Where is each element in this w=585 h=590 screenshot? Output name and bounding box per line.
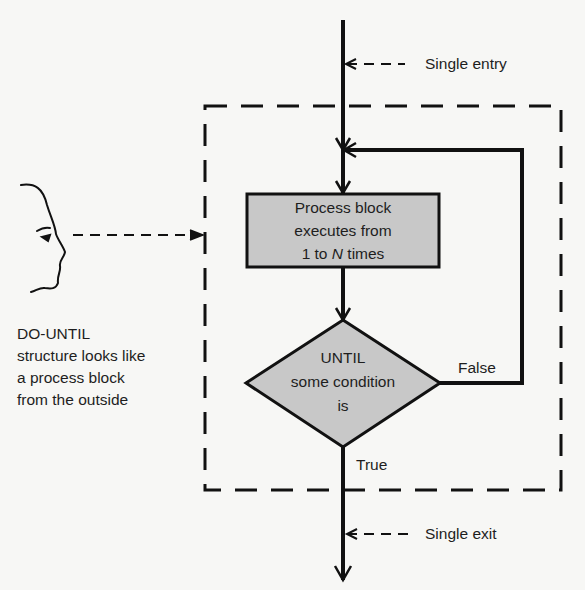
- decision-text: UNTIL some condition is: [246, 346, 440, 418]
- structure-boundary: [205, 106, 561, 490]
- flowchart-canvas: [0, 0, 585, 590]
- process-block-text: Process block executes from 1 to N times: [247, 196, 439, 265]
- sight-arrow: [190, 230, 203, 240]
- observer-note: DO-UNTIL structure looks like a process …: [17, 323, 145, 411]
- single-exit-label: Single exit: [425, 524, 497, 544]
- face-profile-icon: [21, 185, 65, 292]
- single-entry-label: Single entry: [425, 54, 507, 74]
- true-label: True: [356, 455, 387, 475]
- false-label: False: [458, 358, 496, 378]
